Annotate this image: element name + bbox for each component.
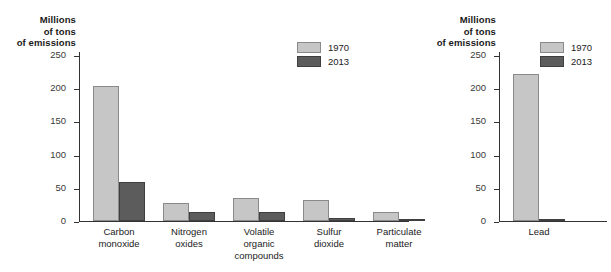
bar-group-sulfur-dioxide (303, 55, 355, 221)
bar-group-nitrogen-oxides (163, 55, 215, 221)
y-axis-title-line-2: of tons (0, 26, 76, 38)
legend-label-1970: 1970 (328, 42, 349, 53)
y-tick-label-150: 150 (470, 115, 486, 126)
y-tick-0: 0 (494, 222, 499, 223)
x-label-line-1: Carbon (83, 226, 155, 238)
x-label-line-2: monoxide (83, 238, 155, 250)
y-axis-title-line-1: Millions (420, 14, 496, 26)
y-tick-100: 100 (494, 156, 499, 157)
y-tick-200: 200 (74, 89, 79, 90)
y-tick-label-200: 200 (470, 82, 486, 93)
x-label-line-1: Lead (503, 226, 575, 238)
y-tick-label-250: 250 (470, 49, 486, 60)
bar-group-volatile-organic-compounds (233, 55, 285, 221)
bar-particulate-matter-1970 (373, 212, 399, 221)
bar-nitrogen-oxides-1970 (163, 203, 189, 221)
y-axis-line-right (499, 52, 500, 222)
y-tick-label-0: 0 (61, 215, 66, 226)
bar-carbon-monoxide-1970 (93, 86, 119, 222)
legend-swatch-1970-icon (297, 42, 321, 53)
y-axis-title-line-3: of emissions (420, 37, 496, 49)
bar-lead-1970 (513, 74, 539, 221)
bar-volatile-organic-compounds-2013 (259, 212, 285, 221)
y-tick-250: 250 (494, 56, 499, 57)
x-label-line-1: Volatile (223, 226, 295, 238)
bar-group-lead (513, 55, 565, 221)
y-tick-50: 50 (494, 189, 499, 190)
y-tick-label-100: 100 (470, 149, 486, 160)
x-label-line-2: organic (223, 238, 295, 250)
y-tick-250: 250 (74, 56, 79, 57)
legend-swatch-1970-icon (540, 42, 564, 53)
x-label-sulfur-dioxide: Sulfur dioxide (293, 226, 365, 250)
x-label-line-1: Sulfur (293, 226, 365, 238)
y-tick-50: 50 (74, 189, 79, 190)
x-label-line-2: dioxide (293, 238, 365, 250)
y-tick-150: 150 (494, 122, 499, 123)
plot-area-right: 250 200 150 100 50 0 Lead (499, 56, 607, 222)
y-axis-title-line-2: of tons (420, 26, 496, 38)
y-tick-label-100: 100 (50, 149, 66, 160)
bar-group-carbon-monoxide (93, 55, 145, 221)
y-tick-label-250: 250 (50, 49, 66, 60)
y-tick-150: 150 (74, 122, 79, 123)
x-label-lead: Lead (503, 226, 575, 238)
y-tick-200: 200 (494, 89, 499, 90)
y-tick-label-150: 150 (50, 115, 66, 126)
y-axis-title-line-1: Millions (0, 14, 76, 26)
y-tick-label-0: 0 (481, 215, 486, 226)
y-axis-title-right: Millions of tons of emissions (420, 14, 496, 49)
bar-carbon-monoxide-2013 (119, 182, 145, 221)
x-label-line-1: Nitrogen (153, 226, 225, 238)
y-tick-100: 100 (74, 156, 79, 157)
legend-label-1970: 1970 (571, 42, 592, 53)
legend-item-1970: 1970 (297, 42, 349, 53)
bar-sulfur-dioxide-2013 (329, 218, 355, 221)
x-axis-line-left (79, 221, 409, 222)
x-axis-line-right (499, 221, 607, 222)
emissions-chart-panel: Millions of tons of emissions 1970 2013 … (0, 0, 420, 272)
lead-chart-panel: Millions of tons of emissions 1970 2013 … (420, 0, 611, 272)
y-axis-title-line-3: of emissions (0, 37, 76, 49)
x-label-carbon-monoxide: Carbon monoxide (83, 226, 155, 250)
bar-nitrogen-oxides-2013 (189, 212, 215, 221)
y-tick-label-50: 50 (55, 182, 66, 193)
bar-lead-2013 (539, 219, 565, 221)
y-tick-label-50: 50 (475, 182, 486, 193)
legend-item-1970: 1970 (540, 42, 592, 53)
plot-area-left: 250 200 150 100 50 0 Carbon monoxide Nit… (79, 56, 409, 222)
y-axis-line-left (79, 52, 80, 222)
bar-group-particulate-matter (373, 55, 425, 221)
x-label-line-2: oxides (153, 238, 225, 250)
y-tick-0: 0 (74, 222, 79, 223)
y-tick-label-200: 200 (50, 82, 66, 93)
bar-sulfur-dioxide-1970 (303, 200, 329, 221)
y-axis-title-left: Millions of tons of emissions (0, 14, 76, 49)
x-label-line-3: compounds (223, 250, 295, 262)
x-label-volatile-organic-compounds: Volatile organic compounds (223, 226, 295, 262)
x-label-nitrogen-oxides: Nitrogen oxides (153, 226, 225, 250)
bar-volatile-organic-compounds-1970 (233, 198, 259, 221)
